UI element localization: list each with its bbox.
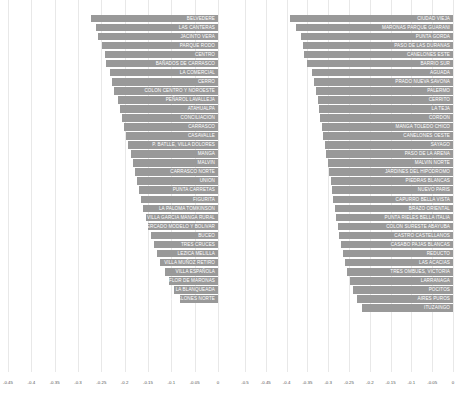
- bar[interactable]: TRES OMBUES, VICTORIA: [347, 268, 453, 276]
- bar[interactable]: VILLA MUÑOZ RETIRO: [160, 259, 218, 267]
- bar[interactable]: COLON SURESTE ABAYUBA: [338, 223, 453, 231]
- bar-category-label: VILLA GARCIA MANGA RURAL: [147, 214, 215, 222]
- bar[interactable]: PASO DE LAS DURANAS: [303, 42, 453, 50]
- left-plot-area: BELVEDERELAS CANTERASJACINTO VERAPARQUE …: [0, 0, 235, 372]
- bar-category-label: COLON SURESTE ABAYUBA: [386, 223, 450, 231]
- bar[interactable]: LEZICA MELILLA: [157, 250, 218, 258]
- bar-row: MALVIN: [0, 159, 235, 168]
- bar-row: CANELONES NORTE: [0, 294, 235, 303]
- bar[interactable]: PARQUE RODO: [102, 42, 218, 50]
- bar[interactable]: AIRES PUROS: [357, 295, 453, 303]
- bar[interactable]: MANGA: [131, 150, 218, 158]
- bar-row: CARRASCO: [0, 123, 235, 132]
- bar[interactable]: JACINTO VERA: [98, 33, 218, 41]
- bar[interactable]: CANELONES NORTE: [180, 295, 218, 303]
- bar[interactable]: CASABO PAJAS BLANCAS: [341, 241, 453, 249]
- bar-row: FIGURITA: [0, 195, 235, 204]
- bar-row: POCITOS: [235, 285, 469, 294]
- bar[interactable]: PALERMO: [316, 87, 453, 95]
- bar[interactable]: BELVEDERE: [91, 15, 218, 23]
- bar[interactable]: PIEDRAS BLANCAS: [331, 177, 453, 185]
- bar-row: VILLA ESPAÑOLA: [0, 267, 235, 276]
- bar-category-label: PUNTA RIELES BELLA ITALIA: [385, 214, 450, 222]
- bar[interactable]: AGUADA: [312, 69, 453, 77]
- bar-row: LARRANAGA: [235, 276, 469, 285]
- bar[interactable]: COLON CENTRO Y NOROESTE: [114, 87, 218, 95]
- bar[interactable]: MALVIN NORTE: [328, 159, 453, 167]
- x-axis-tick-label: -0.35: [302, 380, 312, 385]
- bar-row: COLON CENTRO Y NOROESTE: [0, 86, 235, 95]
- bar-row: CENTRO: [0, 50, 235, 59]
- bar-row: CORDON: [235, 114, 469, 123]
- bar[interactable]: P. BATLLE, VILLA DOLORES: [128, 141, 218, 149]
- bar[interactable]: CAPURRO BELLA VISTA: [333, 196, 453, 204]
- bar[interactable]: PUNTA GORDA: [301, 33, 453, 41]
- bar[interactable]: BRAZO ORIENTAL: [335, 205, 453, 213]
- bar[interactable]: MERCADO MODELO Y BOLIVAR: [148, 223, 218, 231]
- bar[interactable]: CARRASCO: [124, 123, 218, 131]
- bar[interactable]: ATAHUALPA: [120, 105, 218, 113]
- bar-row: LA COMERCIAL: [0, 68, 235, 77]
- bar[interactable]: FLOR DE MARONAS: [169, 277, 218, 285]
- bar[interactable]: PUNTA CARRETAS: [139, 186, 218, 194]
- bar-category-label: MANGA: [198, 150, 215, 158]
- x-axis-tick-label: -0.4: [283, 380, 291, 385]
- bar[interactable]: PEÑAROL LAVALLEJA: [118, 96, 218, 104]
- bar-row: ITUZAINGO: [235, 304, 469, 313]
- bar-category-label: LAS ACACIAS: [419, 259, 450, 267]
- bar[interactable]: CANELONES ESTE: [304, 51, 453, 59]
- bar[interactable]: MALVIN: [133, 159, 218, 167]
- bar[interactable]: FIGURITA: [141, 196, 218, 204]
- bar[interactable]: VILLA ESPAÑOLA: [165, 268, 218, 276]
- bar[interactable]: NUEVO PARIS: [332, 186, 453, 194]
- bar-category-label: BUCEO: [198, 232, 215, 240]
- bar-row: PIEDRAS BLANCAS: [235, 177, 469, 186]
- bar-row: CIUDAD VIEJA: [235, 14, 469, 23]
- bar[interactable]: CERRO: [112, 78, 218, 86]
- bar-row: PEÑAROL LAVALLEJA: [0, 95, 235, 104]
- bar-category-label: PEÑAROL LAVALLEJA: [166, 96, 215, 104]
- bar-row: PRADO NUEVA SAVONA: [235, 77, 469, 86]
- bar[interactable]: CORDON: [320, 114, 453, 122]
- bar[interactable]: ITUZAINGO: [362, 304, 453, 312]
- bar[interactable]: LARRANAGA: [350, 277, 453, 285]
- bar[interactable]: BARRIO SUR: [307, 60, 453, 68]
- bar[interactable]: REDUCTO: [343, 250, 453, 258]
- bar-category-label: PALERMO: [427, 87, 450, 95]
- bar-row: CASTRO CASTELLANOS: [235, 231, 469, 240]
- bar[interactable]: VILLA GARCIA MANGA RURAL: [146, 214, 218, 222]
- bar[interactable]: CARRASCO NORTE: [135, 168, 218, 176]
- bar[interactable]: BAÑADOS DE CARRASCO: [106, 60, 218, 68]
- bar[interactable]: LA TEJA: [319, 105, 453, 113]
- bar[interactable]: LA PALOMA TOMKINSON: [143, 205, 218, 213]
- bar-row: UNION: [0, 177, 235, 186]
- bar[interactable]: POCITOS: [353, 286, 453, 294]
- bar-row: CANELONES ESTE: [235, 50, 469, 59]
- bar-category-label: LAS CANTERAS: [179, 24, 215, 32]
- bar[interactable]: UNION: [137, 177, 218, 185]
- bar[interactable]: CONCILIACION: [122, 114, 218, 122]
- bar[interactable]: PASO DE LA ARENA: [326, 150, 453, 158]
- bar[interactable]: PRADO NUEVA SAVONA: [314, 78, 453, 86]
- bar[interactable]: CIUDAD VIEJA: [290, 15, 453, 23]
- bar[interactable]: PUNTA RIELES BELLA ITALIA: [336, 214, 453, 222]
- bar[interactable]: CENTRO: [105, 51, 218, 59]
- bar[interactable]: MARONAS PARQUE GUARANI: [296, 24, 453, 32]
- bar[interactable]: BUCEO: [151, 232, 218, 240]
- bar[interactable]: MANGA TOLEDO CHICO: [322, 123, 453, 131]
- bar[interactable]: JARDINES DEL HIPODROMO: [329, 168, 453, 176]
- bar[interactable]: CANELONES OESTE: [323, 132, 453, 140]
- bar-row: LA PALOMA TOMKINSON: [0, 204, 235, 213]
- bar[interactable]: CERRITO: [318, 96, 453, 104]
- bar[interactable]: LAS CANTERAS: [96, 24, 218, 32]
- bar-category-label: CIUDAD VIEJA: [417, 15, 450, 23]
- bar-category-label: CASAVALLE: [188, 132, 215, 140]
- bar[interactable]: LAS ACACIAS: [345, 259, 453, 267]
- bar[interactable]: LA BLANQUEADA: [174, 286, 218, 294]
- bar[interactable]: LA COMERCIAL: [110, 69, 218, 77]
- bar-row: JARDINES DEL HIPODROMO: [235, 168, 469, 177]
- bar[interactable]: CASAVALLE: [126, 132, 218, 140]
- bar[interactable]: TRES CRUCES: [154, 241, 218, 249]
- bar[interactable]: SAYAGO: [325, 141, 453, 149]
- bar[interactable]: CASTRO CASTELLANOS: [339, 232, 453, 240]
